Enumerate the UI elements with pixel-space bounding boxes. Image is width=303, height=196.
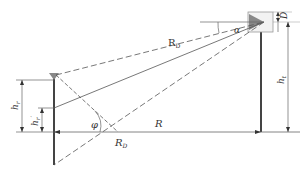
label-alpha: α <box>234 25 240 35</box>
hrp-top-arrow <box>40 108 44 113</box>
label-hr-prime: hr′ <box>29 115 41 126</box>
hr-top-arrow <box>20 80 24 85</box>
solid-ray <box>54 22 264 108</box>
label-rd-bottom: RD <box>114 137 128 149</box>
label-phi: φ <box>91 119 98 130</box>
label-r: R <box>154 118 163 129</box>
hrp-bottom-arrow <box>40 127 44 132</box>
label-rd-top: RD <box>168 37 181 49</box>
two-ray-geometry-diagram: RD α D ht hr hr′ φ R RD <box>0 0 303 196</box>
reflected-ray-image <box>54 22 264 165</box>
hr-bottom-arrow <box>20 127 24 132</box>
ht-top-arrow <box>286 22 290 27</box>
label-d: D <box>279 12 289 20</box>
alpha-arc <box>218 22 219 33</box>
label-hr: hr <box>10 100 21 110</box>
ht-bottom-arrow <box>286 127 290 132</box>
label-ht: ht <box>276 75 287 84</box>
direct-ray-dashed <box>56 22 264 75</box>
